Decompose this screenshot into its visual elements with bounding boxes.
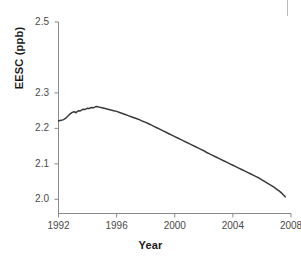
- page-margin-rule: [287, 0, 288, 16]
- x-axis-ticks: [59, 214, 292, 218]
- axes: [55, 22, 292, 218]
- data-series-group: [59, 106, 286, 196]
- series-line-eesc: [59, 106, 286, 196]
- y-axis-title: EESC (ppb): [13, 3, 25, 113]
- y-axis-ticks: [55, 22, 59, 199]
- y-tick-label: 2.0: [21, 194, 49, 204]
- x-axis-tick-labels: 19921996200020042008: [0, 221, 301, 235]
- y-tick-label: 2.5: [21, 17, 49, 27]
- y-tick-label: 2.2: [21, 123, 49, 133]
- x-tick-label: 2004: [213, 221, 253, 231]
- chart-figure: 2.02.12.22.32.5 19921996200020042008 EES…: [0, 0, 301, 263]
- x-tick-label: 2000: [155, 221, 195, 231]
- x-axis-title: Year: [0, 239, 301, 251]
- y-tick-label: 2.3: [21, 88, 49, 98]
- x-tick-label: 2008: [271, 221, 301, 231]
- y-tick-label: 2.1: [21, 159, 49, 169]
- x-tick-label: 1996: [97, 221, 137, 231]
- x-tick-label: 1992: [39, 221, 79, 231]
